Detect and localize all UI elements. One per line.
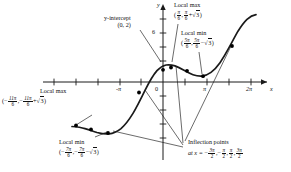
local-max-top-annotation: Local max (π6,π6+√3): [174, 2, 202, 21]
y-tick-label-6: 6: [152, 29, 155, 36]
frac-den: 6: [177, 15, 182, 21]
frac-num: 3π: [236, 148, 243, 153]
frac-num: 11π: [8, 96, 17, 101]
neg-sign: −: [74, 148, 78, 155]
x-tick-label-neg-pi: -π: [116, 86, 121, 93]
frac-den: 6: [8, 101, 17, 107]
axis-label-x: x: [270, 86, 273, 93]
local-min-left-coord: (−7π6,−7π6−√3): [59, 147, 99, 158]
local-min-left-title: Local min: [59, 139, 99, 146]
inflection-points-annotation: Inflection points at x = −3π2,−π2,π2,3π2: [188, 139, 243, 159]
neg-sign: −: [4, 97, 8, 104]
radical: √3: [89, 149, 97, 156]
paren-close: ): [200, 11, 202, 18]
inflection-title: Inflection points: [188, 139, 243, 146]
local-max-top-coord: (π6,π6+√3): [174, 10, 202, 21]
x-tick-label-2pi: 2π: [246, 86, 252, 93]
local-max-top-title: Local max: [174, 2, 202, 9]
frac-den: 6: [193, 43, 200, 49]
frac-num: 5π: [193, 38, 200, 43]
local-min-left-annotation: Local min (−7π6,−7π6−√3): [59, 139, 99, 158]
inflection-values: at x = −3π2,−π2,π2,3π2: [188, 148, 243, 159]
radical: √3: [192, 12, 200, 19]
frac-den: 6: [184, 43, 191, 49]
paren-close: ): [44, 97, 46, 104]
axis-label-y: y: [157, 2, 160, 9]
frac-den: 2: [236, 153, 243, 159]
neg-sign: −: [204, 149, 208, 156]
frac-den: 6: [65, 152, 72, 158]
frac-den: 2: [229, 153, 234, 159]
frac-num: 5π: [184, 38, 191, 43]
frac-den: 6: [23, 101, 32, 107]
inflection-prefix: at x =: [188, 149, 203, 156]
local-max-left-annotation: Local max (−11π6,−11π6+√3): [2, 88, 66, 107]
y-intercept-annotation: y-intercept (0, 2): [104, 15, 131, 28]
local-max-left-title: Local max: [40, 88, 66, 95]
frac-den: 6: [78, 152, 85, 158]
neg-sign: −: [19, 97, 23, 104]
frac-num: 11π: [23, 96, 32, 101]
x-tick-label-pi: π: [203, 86, 206, 93]
neg-sign: −: [218, 149, 222, 156]
paren-close: ): [212, 39, 214, 46]
y-intercept-coord: (0, 2): [104, 22, 131, 29]
local-min-right-annotation: Local min (5π6,5π6−√3): [181, 30, 214, 49]
paren-close: ): [97, 148, 99, 155]
radical: √3: [37, 98, 45, 105]
frac-den: 2: [208, 153, 215, 159]
frac-num: 7π: [65, 147, 72, 152]
local-max-left-coord: (−11π6,−11π6+√3): [2, 96, 66, 107]
local-min-right-coord: (5π6,5π6−√3): [181, 38, 214, 49]
frac-den: 6: [184, 15, 189, 21]
frac-den: 2: [222, 153, 227, 159]
local-min-right-title: Local min: [181, 30, 214, 37]
radical: √3: [204, 40, 212, 47]
frac-num: 3π: [208, 148, 215, 153]
frac-num: 7π: [78, 147, 85, 152]
neg-sign: −: [61, 148, 65, 155]
x-tick-label-zero: 0: [155, 86, 158, 93]
